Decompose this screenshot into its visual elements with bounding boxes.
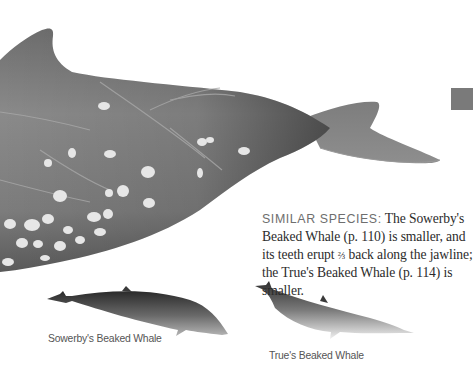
main-whale-illustration <box>0 0 473 375</box>
sowerbys-whale-illustration <box>47 286 228 336</box>
sowerbys-caption: Sowerby's Beaked Whale <box>48 333 162 344</box>
similar-species-label: SIMILAR SPECIES: <box>262 212 382 226</box>
section-tab-marker <box>451 88 473 110</box>
similar-species-paragraph: SIMILAR SPECIES: The Sowerby's Beaked Wh… <box>262 210 473 299</box>
trues-caption: True's Beaked Whale <box>269 350 364 361</box>
